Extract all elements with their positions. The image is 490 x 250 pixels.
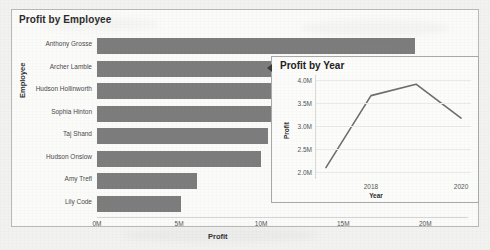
line-chart-x-tick-label: 2020 xyxy=(454,183,468,190)
line-chart-y-tick-label: 2.0M xyxy=(298,169,312,176)
bar-rect[interactable] xyxy=(97,173,197,189)
profit-by-year-chart-panel[interactable]: Profit by Year 2.0M2.5M3.0M3.5M4.0M Year… xyxy=(271,56,479,203)
bar-chart-x-axis-label: Profit xyxy=(208,232,228,241)
line-chart-plot-area: 2.0M2.5M3.0M3.5M4.0M xyxy=(316,75,471,179)
bar-chart-x-tick-label: 5M xyxy=(175,220,184,227)
line-chart-y-tick-label: 3.5M xyxy=(298,100,312,107)
line-chart-gridline xyxy=(316,172,471,173)
bar-row[interactable]: Anthony Grosse xyxy=(97,38,468,54)
bar-category-label: Lily Code xyxy=(65,198,92,205)
pointer-caret-icon xyxy=(267,64,272,72)
bar-category-label: Hudson Onslow xyxy=(46,153,92,160)
bar-category-label: Anthony Grosse xyxy=(45,40,92,47)
line-chart-x-axis-label: Year xyxy=(369,192,383,199)
bar-category-label: Taj Shand xyxy=(63,130,92,137)
bar-category-label: Archer Lamble xyxy=(50,63,92,70)
bar-rect[interactable] xyxy=(97,128,268,144)
bar-chart-x-tick-label: 0M xyxy=(92,220,101,227)
line-chart-y-tick-label: 3.0M xyxy=(298,123,312,130)
bar-chart-x-tick-label: 20M xyxy=(419,220,432,227)
line-chart-y-tick-label: 4.0M xyxy=(298,77,312,84)
bar-chart-y-axis-label: Employee xyxy=(18,63,27,98)
line-chart-x-tick-label: 2018 xyxy=(364,183,378,190)
bar-category-label: Hudson Hollinworth xyxy=(36,85,92,92)
line-chart-gridline xyxy=(316,149,471,150)
bar-chart-title: Profit by Employee xyxy=(19,14,111,25)
bar-chart-x-axis-line xyxy=(97,217,468,218)
bar-rect[interactable] xyxy=(97,151,261,167)
bar-rect[interactable] xyxy=(97,196,181,212)
bar-category-label: Amy Trefl xyxy=(65,175,92,182)
bar-chart-x-tick-label: 15M xyxy=(337,220,350,227)
bar-category-label: Sophia Hinton xyxy=(51,108,92,115)
line-chart-gridline xyxy=(316,80,471,81)
line-chart-title: Profit by Year xyxy=(280,60,344,71)
line-chart-gridline xyxy=(316,126,471,127)
line-chart-y-tick-label: 2.5M xyxy=(298,146,312,153)
bar-chart-x-tick-label: 10M xyxy=(255,220,268,227)
scanned-page: Profit by Employee Anthony GrosseArcher … xyxy=(0,0,490,250)
line-chart-y-axis-label: Profit xyxy=(283,122,290,139)
line-chart-gridline xyxy=(316,103,471,104)
bar-rect[interactable] xyxy=(97,38,415,54)
